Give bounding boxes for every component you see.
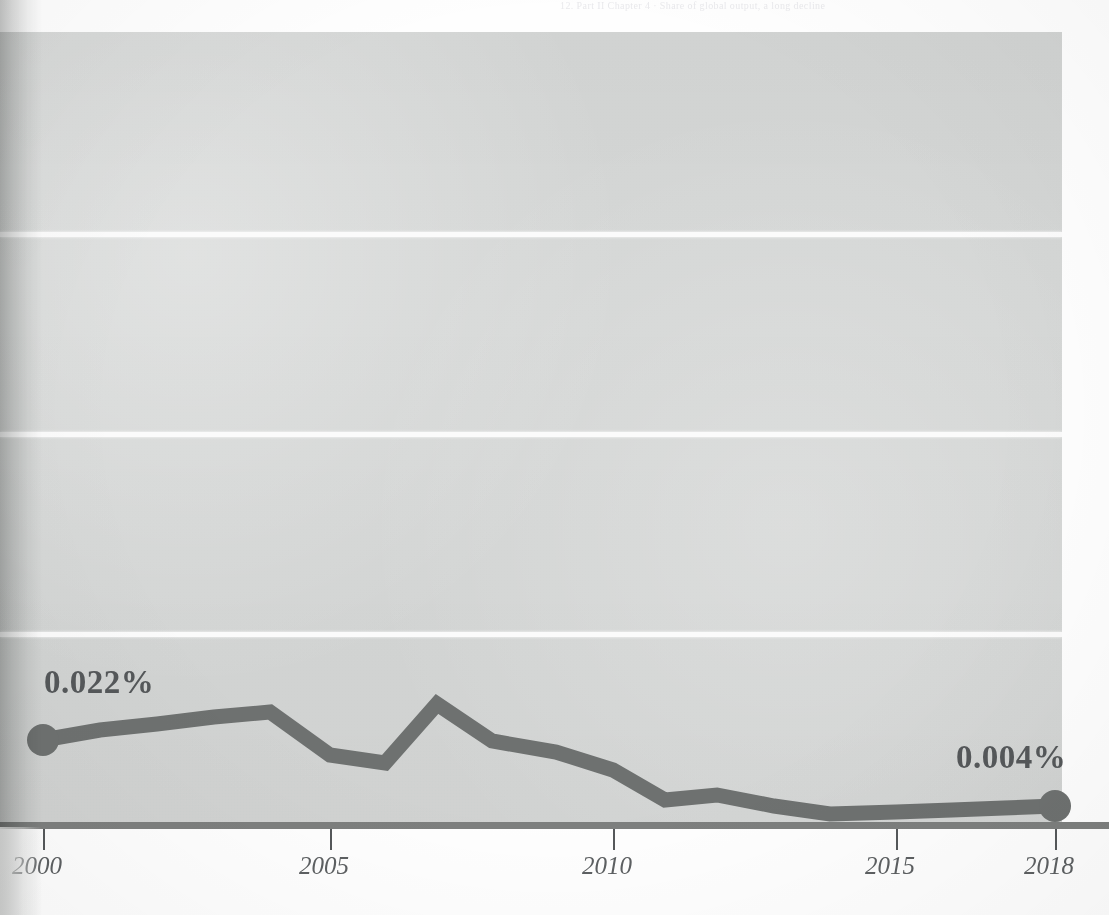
x-tick-2018 [1055,829,1057,850]
x-tick-label-2018: 2018 [1024,852,1074,880]
page-background: 12. Part II Chapter 4 · Share of global … [0,0,1109,915]
running-head-text: 12. Part II Chapter 4 · Share of global … [560,0,1080,11]
x-tick-2015 [896,829,898,850]
value-label-end: 0.004% [956,739,1066,776]
value-label-start: 0.022% [44,664,154,701]
paper-grain-texture [0,32,1062,827]
x-tick-2010 [613,829,615,850]
x-tick-label-2000: 2000 [12,852,62,880]
x-tick-label-2005: 2005 [299,852,349,880]
x-axis-line [0,822,1109,829]
x-tick-label-2010: 2010 [582,852,632,880]
gridline-middle [0,432,1062,437]
chart-plot-area [0,32,1062,827]
x-tick-2000 [43,829,45,850]
gridline-lower [0,632,1062,637]
x-tick-label-2015: 2015 [865,852,915,880]
x-tick-2005 [330,829,332,850]
gridline-upper [0,232,1062,237]
